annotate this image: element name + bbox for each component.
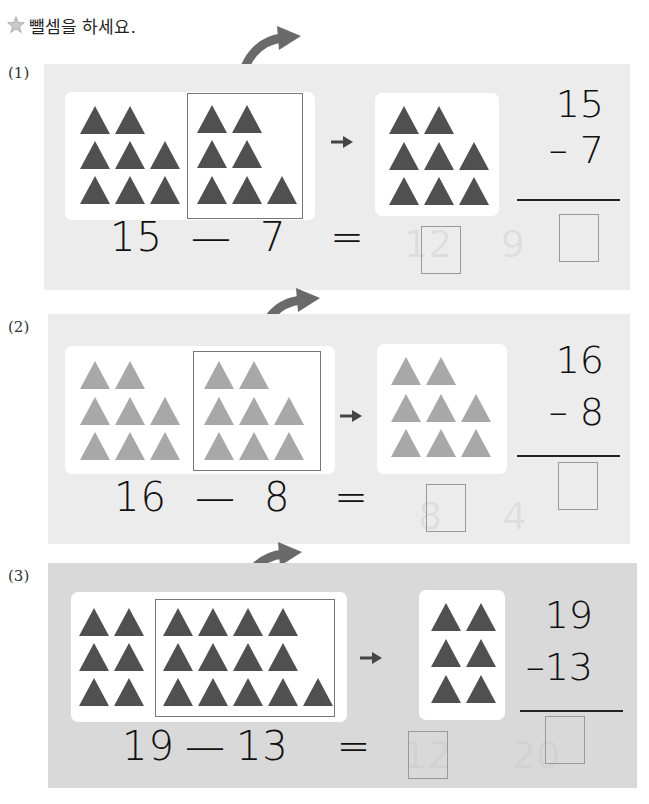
triangle bbox=[80, 106, 110, 134]
triangle bbox=[150, 141, 180, 169]
triangle-row bbox=[80, 397, 180, 425]
triangle-row bbox=[431, 603, 496, 631]
problem-3-panel: 12 20 19 –13 19 — 13 = bbox=[48, 563, 637, 788]
triangle-row bbox=[79, 608, 144, 636]
triangle bbox=[459, 142, 489, 170]
triangle bbox=[115, 432, 145, 460]
triangle bbox=[268, 678, 298, 706]
triangle bbox=[232, 176, 262, 204]
vertical-answer-box[interactable] bbox=[559, 214, 599, 262]
triangle-row bbox=[204, 397, 304, 425]
triangle bbox=[150, 397, 180, 425]
triangle-row bbox=[389, 142, 489, 170]
triangle bbox=[163, 608, 193, 636]
triangle bbox=[80, 361, 110, 389]
triangle bbox=[268, 643, 298, 671]
triangle-row bbox=[204, 361, 269, 389]
triangle-row bbox=[389, 177, 489, 205]
problem-3-label: (3) bbox=[8, 567, 29, 585]
horizontal-answer-box[interactable] bbox=[408, 731, 448, 779]
triangle bbox=[431, 639, 461, 667]
triangle bbox=[232, 140, 262, 168]
triangle bbox=[391, 429, 421, 457]
triangle bbox=[461, 429, 491, 457]
triangle bbox=[80, 141, 110, 169]
triangle-row bbox=[431, 675, 496, 703]
triangle bbox=[204, 432, 234, 460]
triangle bbox=[239, 361, 269, 389]
vertical-minuend: 16 bbox=[544, 338, 604, 382]
triangle bbox=[431, 675, 461, 703]
triangle bbox=[239, 432, 269, 460]
equals-sign: = bbox=[337, 723, 372, 769]
triangle bbox=[389, 177, 419, 205]
triangle-row bbox=[431, 639, 496, 667]
horizontal-answer-box[interactable] bbox=[426, 484, 466, 532]
triangle bbox=[79, 608, 109, 636]
right-arrow-icon bbox=[360, 652, 382, 664]
triangle bbox=[233, 678, 263, 706]
minus-sign: — bbox=[191, 214, 232, 260]
triangle-row bbox=[80, 361, 145, 389]
sum-line bbox=[517, 199, 620, 201]
minus-sign: — bbox=[195, 474, 236, 520]
triangle bbox=[268, 608, 298, 636]
instruction-text: 뺄셈을 하세요. bbox=[29, 13, 136, 38]
horizontal-equation: 16 — 8 = bbox=[114, 474, 369, 520]
triangle bbox=[204, 361, 234, 389]
triangle-row bbox=[197, 105, 262, 133]
triangle bbox=[198, 608, 228, 636]
triangle bbox=[431, 603, 461, 631]
right-arrow-icon bbox=[340, 410, 362, 422]
minuend: 16 bbox=[114, 474, 167, 520]
horizontal-equation: 19 — 13 = bbox=[122, 723, 371, 769]
triangle bbox=[114, 643, 144, 671]
triangle bbox=[115, 106, 145, 134]
triangle bbox=[424, 106, 454, 134]
triangle bbox=[198, 678, 228, 706]
problem-1-label: (1) bbox=[8, 64, 29, 82]
triangle bbox=[197, 105, 227, 133]
vertical-answer-box[interactable] bbox=[545, 716, 585, 764]
sum-line bbox=[520, 710, 623, 712]
triangle-row bbox=[80, 141, 180, 169]
triangle bbox=[233, 643, 263, 671]
triangle bbox=[197, 176, 227, 204]
triangle bbox=[466, 675, 496, 703]
triangle-row bbox=[391, 394, 491, 422]
triangle bbox=[426, 394, 456, 422]
vertical-answer-box[interactable] bbox=[558, 462, 598, 510]
triangle bbox=[232, 105, 262, 133]
triangle bbox=[274, 432, 304, 460]
triangle bbox=[391, 394, 421, 422]
triangle-row bbox=[391, 429, 491, 457]
horizontal-answer-box[interactable] bbox=[421, 226, 461, 274]
triangle bbox=[274, 397, 304, 425]
minuend: 19 bbox=[122, 723, 175, 769]
triangle bbox=[115, 361, 145, 389]
triangle bbox=[424, 177, 454, 205]
triangle bbox=[114, 608, 144, 636]
triangle-row bbox=[163, 643, 298, 671]
triangle bbox=[426, 429, 456, 457]
triangle bbox=[115, 141, 145, 169]
triangle bbox=[424, 142, 454, 170]
triangle bbox=[114, 678, 144, 706]
triangle bbox=[303, 678, 333, 706]
triangle bbox=[150, 432, 180, 460]
triangle-row bbox=[80, 432, 180, 460]
triangle bbox=[461, 394, 491, 422]
triangle-row bbox=[197, 176, 297, 204]
triangle-row bbox=[80, 176, 180, 204]
triangle-row bbox=[80, 106, 145, 134]
vertical-subtrahend: – 8 bbox=[514, 390, 604, 434]
triangle bbox=[267, 176, 297, 204]
minus-sign: — bbox=[185, 723, 226, 769]
sum-line bbox=[517, 455, 620, 457]
right-arrow-icon bbox=[331, 136, 353, 148]
triangle bbox=[80, 397, 110, 425]
triangle bbox=[79, 678, 109, 706]
triangle bbox=[204, 397, 234, 425]
triangle bbox=[233, 608, 263, 636]
vertical-minuend: 19 bbox=[533, 593, 593, 637]
